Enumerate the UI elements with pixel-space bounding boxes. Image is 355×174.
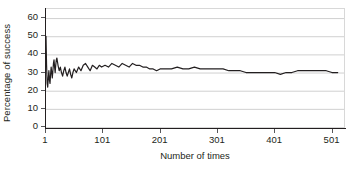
y-tick-mark-40 (41, 53, 45, 54)
y-tick-label-50: 50 (16, 30, 38, 40)
x-tick-label-1: 1 (42, 134, 47, 145)
x-tick-mark-201 (160, 129, 161, 133)
x-tick-labels: 1101201301401501 (45, 134, 346, 148)
x-tick-mark-301 (217, 129, 218, 133)
y-tick-label-10: 10 (16, 103, 38, 113)
x-tick-mark-1 (45, 129, 46, 133)
series-line-cumulative-success (46, 36, 338, 87)
y-tick-mark-50 (41, 35, 45, 36)
x-tick-mark-101 (102, 129, 103, 133)
y-axis-title-wrapper: Percentage of success (0, 54, 14, 68)
x-axis-title: Number of times (45, 150, 345, 161)
y-tick-label-60: 60 (16, 12, 38, 22)
y-tick-mark-20 (41, 90, 45, 91)
y-tick-mark-0 (41, 126, 45, 127)
x-tick-mark-401 (274, 129, 275, 133)
y-tick-mark-30 (41, 72, 45, 73)
x-tick-mark-501 (332, 129, 333, 133)
y-axis-title: Percentage of success (1, 13, 15, 133)
y-tick-label-20: 20 (16, 85, 38, 95)
x-tick-label-201: 201 (152, 134, 168, 145)
y-tick-label-30: 30 (16, 67, 38, 77)
data-line-group (46, 9, 344, 127)
y-tick-labels: 0102030405060 (14, 0, 38, 174)
x-tick-label-101: 101 (94, 134, 110, 145)
y-tick-label-0: 0 (16, 121, 38, 131)
chart-container: Percentage of success 0102030405060 1101… (0, 0, 355, 174)
x-tick-label-401: 401 (266, 134, 282, 145)
y-tick-mark-10 (41, 108, 45, 109)
y-tick-label-40: 40 (16, 48, 38, 58)
plot-area (45, 8, 345, 128)
x-tick-label-501: 501 (324, 134, 340, 145)
y-tick-mark-60 (41, 17, 45, 18)
x-tick-label-301: 301 (209, 134, 225, 145)
